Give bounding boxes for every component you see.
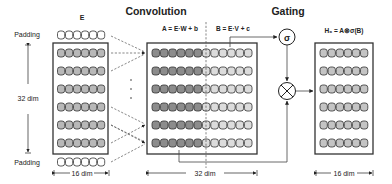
multiply-node (279, 83, 296, 100)
input-height-dimension: 32 dim (17, 45, 38, 153)
cell (90, 31, 97, 39)
cell (320, 103, 327, 111)
cell (152, 49, 160, 57)
cell (352, 103, 359, 111)
cell (160, 139, 168, 147)
cell (58, 139, 65, 147)
cell (58, 158, 65, 166)
cell (328, 85, 335, 93)
cell (344, 103, 351, 111)
cell (336, 49, 343, 57)
convolution-title: Convolution (125, 5, 186, 17)
cell (352, 67, 359, 75)
conv-width-dimension: 32 dim (148, 170, 257, 177)
cell (58, 121, 65, 129)
cell (90, 67, 97, 75)
cell (90, 121, 97, 129)
cell (228, 103, 236, 111)
cell (98, 139, 105, 147)
cell (244, 103, 252, 111)
cell (74, 85, 81, 93)
cell (344, 139, 351, 147)
cell (228, 49, 236, 57)
cell (98, 85, 105, 93)
cell (344, 121, 351, 129)
cell (58, 31, 65, 39)
cell (90, 85, 97, 93)
cell (98, 121, 105, 129)
convolution-matrix (147, 43, 257, 154)
cell (361, 49, 368, 57)
padding-bottom-label: Padding (14, 159, 40, 167)
cell (66, 31, 73, 39)
cell (177, 103, 185, 111)
cell (58, 49, 65, 57)
cell (352, 49, 359, 57)
cell (344, 85, 351, 93)
cell (228, 67, 236, 75)
padding-row (58, 158, 105, 166)
cell (66, 85, 73, 93)
cell (194, 85, 202, 93)
cell (82, 121, 89, 129)
cell (211, 139, 219, 147)
cell (228, 121, 236, 129)
padding-top-label: Padding (14, 31, 40, 39)
cell (152, 85, 160, 93)
cell (219, 103, 227, 111)
cell (82, 85, 89, 93)
cell (236, 139, 244, 147)
cell (66, 121, 73, 129)
cell (244, 49, 252, 57)
cell (320, 121, 327, 129)
cell (74, 139, 81, 147)
cell (66, 139, 73, 147)
cell (194, 121, 202, 129)
cell (90, 103, 97, 111)
cell (219, 121, 227, 129)
cell (186, 67, 194, 75)
cell (336, 121, 343, 129)
output-width-label: 16 dim (333, 170, 354, 177)
cell (336, 85, 343, 93)
cell (74, 67, 81, 75)
cell (169, 49, 177, 57)
input-padding-row-bottom (58, 158, 105, 166)
cell (186, 85, 194, 93)
cell (160, 103, 168, 111)
cell (320, 67, 327, 75)
cell (244, 139, 252, 147)
cell (160, 121, 168, 129)
output-equation: H₀ = A⊗σ(B) (325, 27, 364, 35)
cell (82, 49, 89, 57)
input-width-label: 16 dim (71, 170, 92, 177)
cell (186, 49, 194, 57)
cell (82, 139, 89, 147)
output-width-dimension: 16 dim (316, 170, 373, 177)
input-padding-row-top (58, 31, 105, 39)
cell (169, 67, 177, 75)
cell (169, 103, 177, 111)
cell (74, 121, 81, 129)
cell (169, 85, 177, 93)
cell (152, 103, 160, 111)
cell (219, 139, 227, 147)
cell (211, 103, 219, 111)
cell (152, 67, 160, 75)
cell (236, 67, 244, 75)
cell (328, 49, 335, 57)
cell (361, 67, 368, 75)
cell (194, 67, 202, 75)
cell (74, 49, 81, 57)
equation-b: B = E·V + c (216, 25, 250, 32)
input-matrix (53, 43, 108, 154)
cell (344, 67, 351, 75)
cell (177, 67, 185, 75)
cell (194, 103, 202, 111)
cell (219, 85, 227, 93)
cell (160, 67, 168, 75)
cell (328, 103, 335, 111)
cell (177, 121, 185, 129)
cell (211, 121, 219, 129)
cell (361, 85, 368, 93)
